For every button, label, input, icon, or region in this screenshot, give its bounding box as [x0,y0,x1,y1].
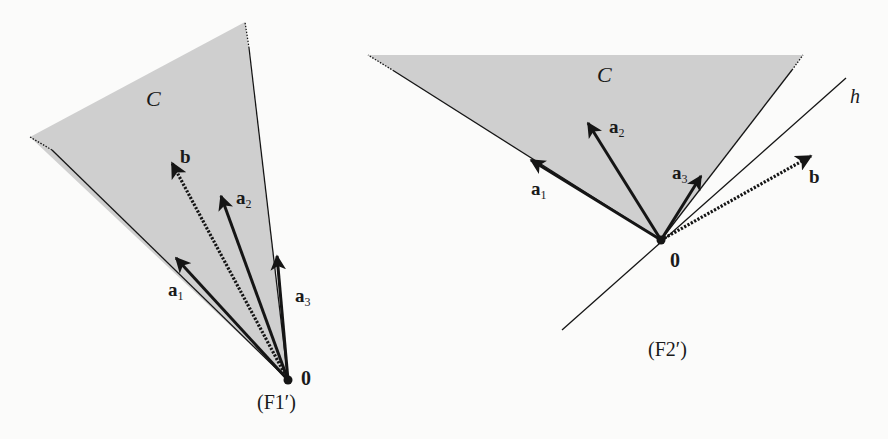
origin-point-f1 [284,376,293,385]
vector-label-a3-f2: a3 [672,163,688,185]
origin-point-f2 [657,236,666,245]
figure-f2 [368,55,846,330]
caption-f1: (F1′) [257,392,296,412]
vector-label-a1-f2: a1 [531,179,547,201]
figure-canvas [0,0,888,439]
vector-label-a3-f1: a3 [295,286,311,308]
cone-label-f1: C [146,88,161,110]
origin-label-f1: 0 [301,368,311,388]
cone-c-f2 [368,55,803,240]
vector-label-b-f1: b [180,147,191,166]
vector-label-a2-f2: a2 [609,117,625,139]
vector-label-a2-f1: a2 [236,188,252,210]
origin-label-f2: 0 [670,250,680,270]
vector-label-a1-f1: a1 [168,280,184,302]
vector-label-b-f2: b [809,167,820,186]
hyperplane-label-h: h [850,86,860,106]
cone-label-f2: C [597,64,612,86]
caption-f2: (F2′) [648,339,687,359]
figure-f1 [30,22,293,385]
